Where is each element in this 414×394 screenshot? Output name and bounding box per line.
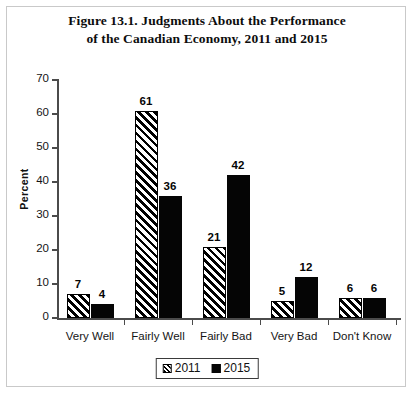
y-tick-label-70: 70 bbox=[20, 72, 49, 84]
y-tick-label-60: 60 bbox=[20, 106, 49, 118]
bar-2015-don-t-know bbox=[363, 298, 386, 318]
x-axis-line bbox=[57, 318, 401, 320]
bar-2011-very-bad bbox=[271, 301, 294, 318]
solid-swatch-icon bbox=[212, 364, 221, 373]
bar-value-label: 4 bbox=[82, 288, 122, 300]
bar-2011-don-t-know bbox=[339, 298, 362, 318]
x-tick bbox=[396, 319, 397, 325]
legend-label-2011: 2011 bbox=[175, 361, 201, 375]
bar-2015-fairly-bad bbox=[227, 175, 250, 318]
legend-item-2011[interactable]: 2011 bbox=[163, 361, 201, 375]
bar-2011-fairly-bad bbox=[203, 247, 226, 318]
x-tick bbox=[328, 319, 329, 325]
figure-title-line-1: Figure 13.1. Judgments About the Perform… bbox=[40, 12, 374, 30]
bar-value-label: 61 bbox=[126, 95, 166, 107]
bar-value-label: 12 bbox=[286, 261, 326, 273]
x-tick bbox=[192, 319, 193, 325]
bar-2015-fairly-well bbox=[159, 196, 182, 318]
x-category-label: Don't Know bbox=[319, 330, 405, 342]
chart-legend: 2011 2015 bbox=[156, 358, 259, 379]
y-tick-label-20: 20 bbox=[20, 242, 49, 254]
x-tick bbox=[260, 319, 261, 325]
hatch-swatch-icon bbox=[163, 364, 172, 373]
figure-title: Figure 13.1. Judgments About the Perform… bbox=[40, 12, 374, 48]
y-tick-label-50: 50 bbox=[20, 140, 49, 152]
y-tick-label-40: 40 bbox=[20, 174, 49, 186]
bar-value-label: 6 bbox=[354, 282, 394, 294]
bar-2011-fairly-well bbox=[135, 111, 158, 318]
bar-value-label: 36 bbox=[150, 180, 190, 192]
plot-area: 746136214251266 bbox=[58, 80, 400, 318]
x-tick bbox=[124, 319, 125, 325]
y-tick-label-10: 10 bbox=[20, 276, 49, 288]
legend-item-2015[interactable]: 2015 bbox=[212, 361, 251, 375]
bar-value-label: 42 bbox=[218, 159, 258, 171]
bar-2015-very-well bbox=[91, 304, 114, 318]
legend-label-2015: 2015 bbox=[224, 361, 251, 375]
bar-2015-very-bad bbox=[295, 277, 318, 318]
figure-container: Figure 13.1. Judgments About the Perform… bbox=[0, 0, 414, 394]
y-tick-label-30: 30 bbox=[20, 208, 49, 220]
y-tick-label-0: 0 bbox=[20, 310, 49, 322]
figure-title-line-2: of the Canadian Economy, 2011 and 2015 bbox=[40, 30, 374, 48]
